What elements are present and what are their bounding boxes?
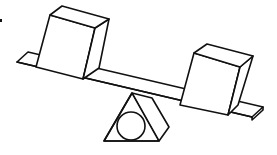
seesaw-diagram bbox=[0, 0, 277, 155]
fulcrum bbox=[104, 93, 169, 141]
seesaw-drawing bbox=[0, 0, 277, 155]
left-box bbox=[36, 6, 109, 79]
mark bbox=[0, 19, 2, 22]
roller-circle bbox=[117, 112, 145, 140]
